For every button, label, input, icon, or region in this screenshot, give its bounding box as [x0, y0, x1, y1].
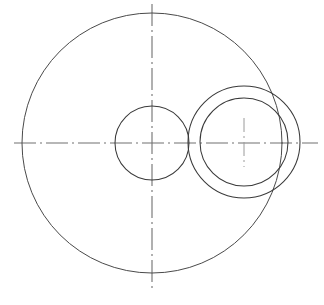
centerline-group	[14, 4, 318, 291]
drawing-svg-root	[0, 0, 324, 305]
technical-drawing-canvas	[0, 0, 324, 305]
